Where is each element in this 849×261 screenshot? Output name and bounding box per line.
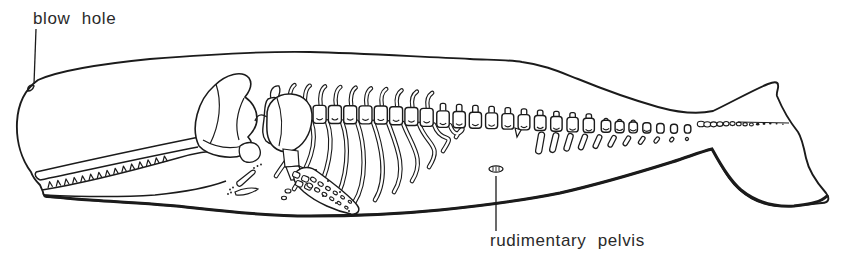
vertebra-body xyxy=(374,106,387,124)
vertebra-body xyxy=(344,106,357,124)
vertebra-body xyxy=(601,120,611,132)
phalanx-dot xyxy=(327,180,329,182)
blowhole-leader-line xyxy=(34,29,36,84)
caudal-vertebra-dot xyxy=(736,122,741,126)
caudal-vertebra-dot xyxy=(749,123,753,126)
phalanx-dot xyxy=(339,191,341,193)
vertebra-body xyxy=(405,108,418,126)
whale-skeleton-figure: blow hole rudimentary pelvis xyxy=(0,0,849,261)
caudal-vertebra-dot xyxy=(710,122,717,127)
vertebra-body xyxy=(328,106,341,124)
pelvis-bone xyxy=(489,166,503,172)
phalanx-dot xyxy=(348,210,350,212)
chevron-bone xyxy=(685,137,689,141)
caudal-vertebra-dot xyxy=(782,124,784,125)
caudal-vertebra-dot xyxy=(717,122,723,127)
whale-skeleton-svg: blow hole rudimentary pelvis xyxy=(0,0,849,261)
jaw-hinge xyxy=(239,143,260,163)
phalanx-dot xyxy=(322,195,324,197)
caudal-vertebra-dot xyxy=(730,122,735,126)
caudal-vertebra-dot xyxy=(704,122,711,127)
phalanx-dot xyxy=(315,169,317,171)
caudal-vertebra-dot xyxy=(743,123,747,126)
vertebra-body xyxy=(420,108,433,126)
caudal-vertebra-dot xyxy=(756,123,759,126)
caudal-vertebra-dot xyxy=(723,122,729,126)
vertebra-body xyxy=(313,105,326,123)
vertebra-body xyxy=(390,107,403,125)
phalanx-dot xyxy=(335,202,337,204)
blow-hole-label: blow hole xyxy=(33,9,116,28)
rudimentary-pelvis-label: rudimentary pelvis xyxy=(490,231,645,250)
vertebra-body xyxy=(671,124,678,133)
vertebra-body xyxy=(657,124,665,134)
vertebra-body xyxy=(359,106,372,124)
vertebra-body xyxy=(684,125,691,133)
